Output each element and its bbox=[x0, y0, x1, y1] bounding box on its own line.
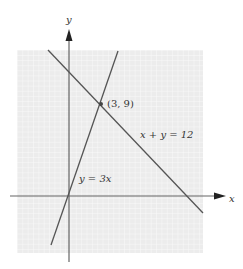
line-label-y-3x: y = 3x bbox=[78, 173, 112, 184]
line-label-x-plus-y: x + y = 12 bbox=[140, 129, 194, 140]
intersection-point bbox=[99, 102, 103, 106]
grid-background bbox=[17, 50, 203, 253]
x-axis-label: x bbox=[229, 193, 235, 204]
y-axis-arrow-icon bbox=[66, 29, 73, 41]
intersection-label: (3, 9) bbox=[107, 98, 134, 109]
x-axis-arrow-icon bbox=[214, 193, 226, 200]
graph: (3, 9) x + y = 12 y = 3x x y bbox=[0, 0, 243, 269]
y-axis-label: y bbox=[65, 14, 72, 25]
